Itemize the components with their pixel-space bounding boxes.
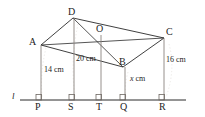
segment-cb	[123, 38, 164, 67]
diagonal-ac	[41, 38, 164, 45]
foot-label-q: Q	[120, 102, 127, 112]
foot-label-t: T	[96, 102, 102, 112]
right-angle-marks	[36, 95, 165, 101]
vertex-label-b: B	[119, 57, 126, 67]
foot-label-s: S	[68, 102, 74, 112]
vertex-label-o: O	[96, 24, 103, 34]
measurement-bq: x cm	[130, 75, 145, 83]
measurement-bq-unit: cm	[136, 74, 146, 83]
measurement-bq-value: x	[130, 74, 134, 83]
vertex-label-a: A	[29, 37, 36, 47]
measurement-ap: 14 cm	[44, 66, 64, 74]
baseline-label: l	[12, 92, 15, 101]
measurement-cr: 16 cm	[166, 56, 186, 64]
measurement-ds: 20 cm	[76, 55, 96, 63]
segment-ad	[41, 18, 73, 45]
vertex-label-c: C	[166, 27, 173, 37]
vertex-label-d: D	[68, 7, 75, 17]
foot-label-r: R	[159, 102, 166, 112]
segment-dc	[73, 18, 164, 38]
foot-label-p: P	[35, 102, 41, 112]
geometry-figure: l A B C D O P S T Q R 14 cm 20 cm x cm 1…	[0, 0, 205, 117]
scan-artifacts	[42, 24, 172, 97]
